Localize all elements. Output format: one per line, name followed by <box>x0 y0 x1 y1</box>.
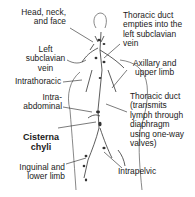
label-cisterna-chyli: Cisterna chyli <box>23 132 59 152</box>
label-line: and face <box>21 17 66 26</box>
label-line: Cisterna <box>23 132 59 142</box>
label-inguinal-lower-limb: Inguinal and lower limb <box>17 163 65 182</box>
lymph-nodes <box>83 39 106 182</box>
label-line: abdominal <box>22 102 62 111</box>
label-line: valves) <box>130 139 184 148</box>
label-head-neck-face: Head, neck, and face <box>21 8 66 27</box>
label-line: vein <box>123 39 182 48</box>
label-line: chyli <box>23 142 59 152</box>
label-intrapelvic: Intrapelvic <box>118 167 156 176</box>
label-line: Intrapelvic <box>118 167 156 176</box>
label-thoracic-duct-transmits: Thoracic duct (transmits lymph through d… <box>130 92 184 148</box>
label-line: vein <box>24 64 67 73</box>
label-line: Intrathoracic <box>15 77 61 86</box>
label-thoracic-duct-empties: Thoracic duct empties into the left subc… <box>123 11 182 49</box>
label-intra-abdominal: Intra- abdominal <box>22 93 62 112</box>
label-axillary-upper-limb: Axillary and upper limb <box>133 59 176 78</box>
lymph-vessels <box>82 32 125 178</box>
label-intrathoracic: Intrathoracic <box>15 77 61 86</box>
label-line: lower limb <box>17 172 65 181</box>
label-left-subclavian-vein: Left subclavian vein <box>24 45 67 73</box>
label-line: upper limb <box>133 68 176 77</box>
